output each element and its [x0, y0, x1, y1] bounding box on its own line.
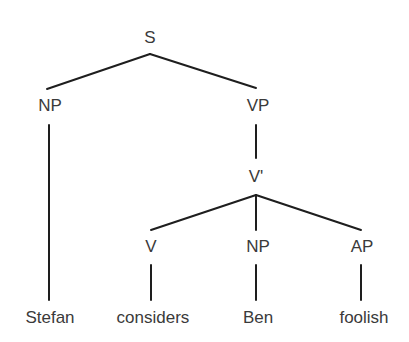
edge-s-vp [150, 54, 256, 88]
node-np-subject: NP [38, 96, 62, 115]
syntax-tree: S NP VP V' V NP AP Stefan considers Ben … [0, 0, 409, 342]
node-vp: VP [247, 96, 270, 115]
edge-vbar-v [151, 195, 256, 230]
leaf-stefan: Stefan [25, 308, 74, 327]
node-np-object: NP [246, 237, 270, 256]
leaf-ben: Ben [243, 308, 273, 327]
node-v: V [145, 237, 157, 256]
leaf-foolish: foolish [339, 308, 388, 327]
leaf-considers: considers [117, 308, 190, 327]
edge-vbar-ap [256, 195, 361, 230]
node-v-bar: V' [249, 167, 264, 186]
edge-s-np [47, 54, 150, 89]
node-s: S [144, 28, 155, 47]
node-ap: AP [351, 237, 374, 256]
